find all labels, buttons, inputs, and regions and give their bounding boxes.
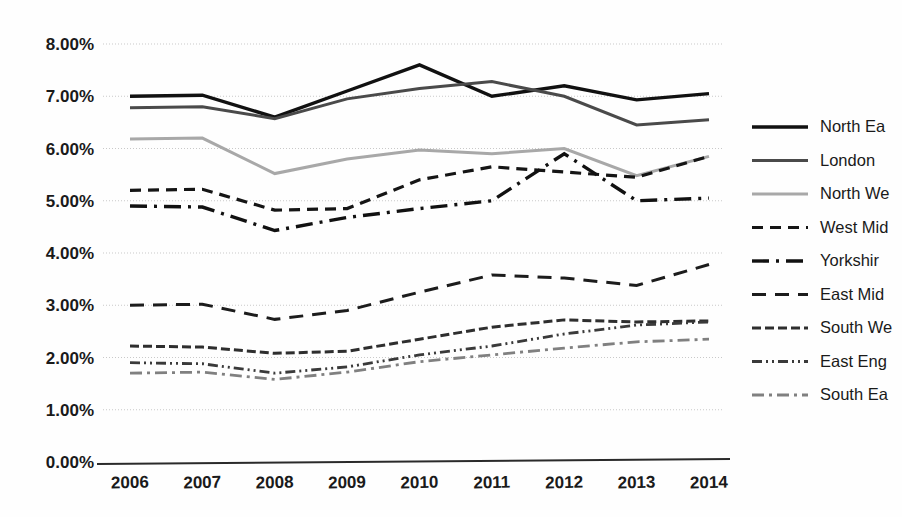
legend-label-west-mid: West Mid [820,218,888,236]
y-axis-tick-labels: 0.00%1.00%2.00%3.00%4.00%5.00%6.00%7.00%… [46,35,94,472]
x-axis-tick-label: 2006 [111,473,149,493]
x-axis-baseline [97,459,730,464]
x-axis-tick-label: 2009 [328,473,366,493]
series-line-south-we [130,320,709,353]
series-line-south-ea [130,339,709,379]
y-axis-tick-label: 2.00% [46,349,94,368]
line-chart: 0.00%1.00%2.00%3.00%4.00%5.00%6.00%7.00%… [0,0,902,517]
legend-label-east-mid: East Mid [820,285,884,303]
series-line-west-mid [130,156,709,210]
y-axis-tick-label: 0.00% [46,453,94,472]
legend-label-north-ea: North Ea [820,117,886,135]
x-axis-tick-label: 2014 [690,473,729,493]
y-axis-tick-label: 7.00% [46,87,94,106]
y-axis-tick-label: 4.00% [46,244,94,263]
y-axis-tick-label: 3.00% [46,296,94,315]
y-axis-tick-label: 6.00% [46,140,94,159]
series-line-east-mid [130,264,709,319]
series-line-north-we [130,138,709,176]
x-axis-tick-labels: 200620072008200920102011201220132014 [111,473,729,493]
y-axis-tick-label: 1.00% [46,401,94,420]
series-line-yorkshir [130,154,709,231]
legend-label-london: London [820,151,875,169]
legend-label-south-we: South We [820,318,892,336]
chart-canvas: 0.00%1.00%2.00%3.00%4.00%5.00%6.00%7.00%… [0,0,902,517]
series-line-london [130,82,709,125]
x-axis-tick-label: 2007 [183,473,221,493]
y-axis-tick-label: 8.00% [46,35,94,54]
y-axis-tick-label: 5.00% [46,192,94,211]
legend-label-yorkshir: Yorkshir [820,251,880,269]
x-axis-tick-label: 2010 [400,473,438,493]
x-axis-line [97,459,730,464]
x-axis-tick-label: 2008 [256,473,294,493]
x-axis-tick-label: 2011 [473,473,510,493]
legend-label-south-ea: South Ea [820,385,889,403]
x-axis-tick-label: 2012 [545,473,583,493]
legend-label-east-eng: East Eng [820,352,887,370]
chart-legend: North EaLondonNorth WeWest MidYorkshirEa… [752,117,892,403]
data-series-group [130,65,709,380]
x-axis-tick-label: 2013 [617,473,655,493]
legend-label-north-we: North We [820,184,889,202]
